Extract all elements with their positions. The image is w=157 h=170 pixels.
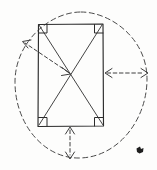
ellipse-outline xyxy=(15,12,147,158)
pen-mark-glyph xyxy=(137,147,144,154)
arrow-radius-upper-left xyxy=(23,40,71,76)
geometry-figure-svg xyxy=(0,0,157,170)
rectangle-diagonals xyxy=(39,25,103,125)
pen-mark xyxy=(137,147,144,154)
circumscribed-ellipse xyxy=(15,12,147,158)
arrow-vertical-down xyxy=(66,127,75,159)
geometry-figure-canvas xyxy=(0,0,157,170)
arrow-horizontal-right xyxy=(105,69,148,78)
